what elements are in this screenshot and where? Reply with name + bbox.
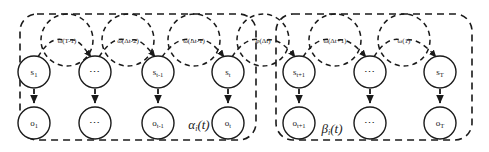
- state-node-group: s1 ⋯ st-1 st st+1 ⋯ sT: [18, 56, 456, 88]
- omega-t-minus-1-label: ω(T-1): [58, 37, 77, 45]
- arc-to-s7: [407, 40, 436, 57]
- plate-alpha-label: αi(t): [188, 117, 209, 133]
- state-ellipsis-left-label: ⋯: [89, 66, 101, 78]
- emission-arrows: [34, 89, 440, 103]
- omega-delta-t-minus-2-label: ω(Δt-2): [117, 37, 139, 45]
- omega-delta-t-minus-1-label: ω(Δt-1): [183, 37, 205, 45]
- graphical-model-svg: ω(T-1) ω(Δt-2) ω(Δt-1) φ(Δt) ω(Δt+1) ω(1…: [0, 0, 489, 152]
- omega-phi-delta-t-label: φ(Δt): [255, 37, 271, 45]
- figure-canvas: ω(T-1) ω(Δt-2) ω(Δt-1) φ(Δt) ω(Δt+1) ω(1…: [0, 0, 489, 152]
- omega-delta-t-plus-1-label: ω(Δt+1): [323, 37, 347, 45]
- state-ellipsis-right-label: ⋯: [364, 66, 376, 78]
- obs-ellipsis-right-label: ⋯: [364, 117, 376, 129]
- obs-ellipsis-left-label: ⋯: [89, 117, 101, 129]
- transition-arcs: [38, 39, 436, 57]
- arc-to-s5: [267, 40, 295, 57]
- observation-node-group: o1 ⋯ ot-1 ot ot+1 ⋯ oT: [18, 107, 456, 139]
- plate-beta-label: βi(t): [321, 121, 343, 137]
- omega-1-label: ω(1): [398, 37, 411, 45]
